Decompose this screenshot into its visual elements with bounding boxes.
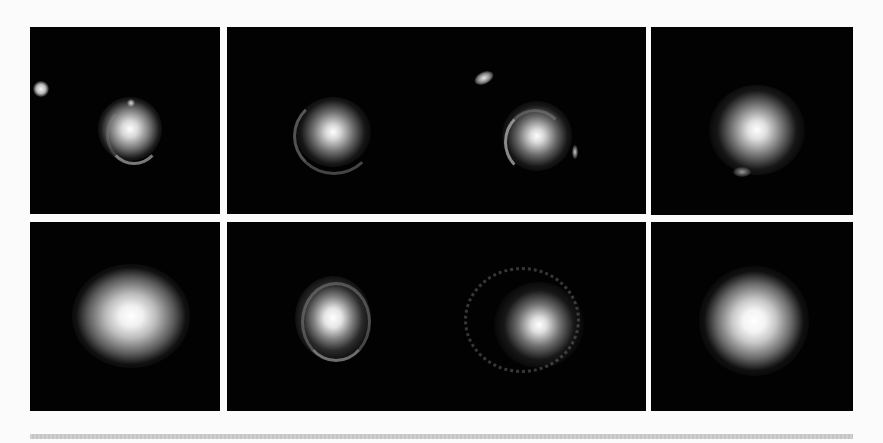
companion-galaxy xyxy=(33,81,49,97)
lens-galaxy xyxy=(709,85,805,175)
lensed-arc xyxy=(504,109,566,175)
panel-r2c2 xyxy=(227,222,427,411)
clumpy-ring xyxy=(464,267,580,373)
counter-image xyxy=(572,145,578,159)
image-grid xyxy=(30,27,853,411)
panel-r2c3 xyxy=(424,222,646,411)
lens-galaxy xyxy=(72,264,190,368)
background-galaxy xyxy=(472,68,495,87)
einstein-ring xyxy=(293,97,375,175)
panel-r1c2 xyxy=(227,27,427,214)
panel-r1c3 xyxy=(424,27,646,214)
panel-r2c4 xyxy=(651,222,853,411)
bottom-rule xyxy=(30,434,853,439)
panel-r2c1 xyxy=(30,222,220,411)
einstein-ring xyxy=(106,105,162,165)
ring-knot xyxy=(127,99,135,107)
panel-r1c1 xyxy=(30,27,220,214)
panel-r1c4 xyxy=(651,27,853,215)
lensed-arc xyxy=(733,167,751,177)
einstein-ring xyxy=(301,282,371,362)
lens-galaxy xyxy=(684,251,825,392)
